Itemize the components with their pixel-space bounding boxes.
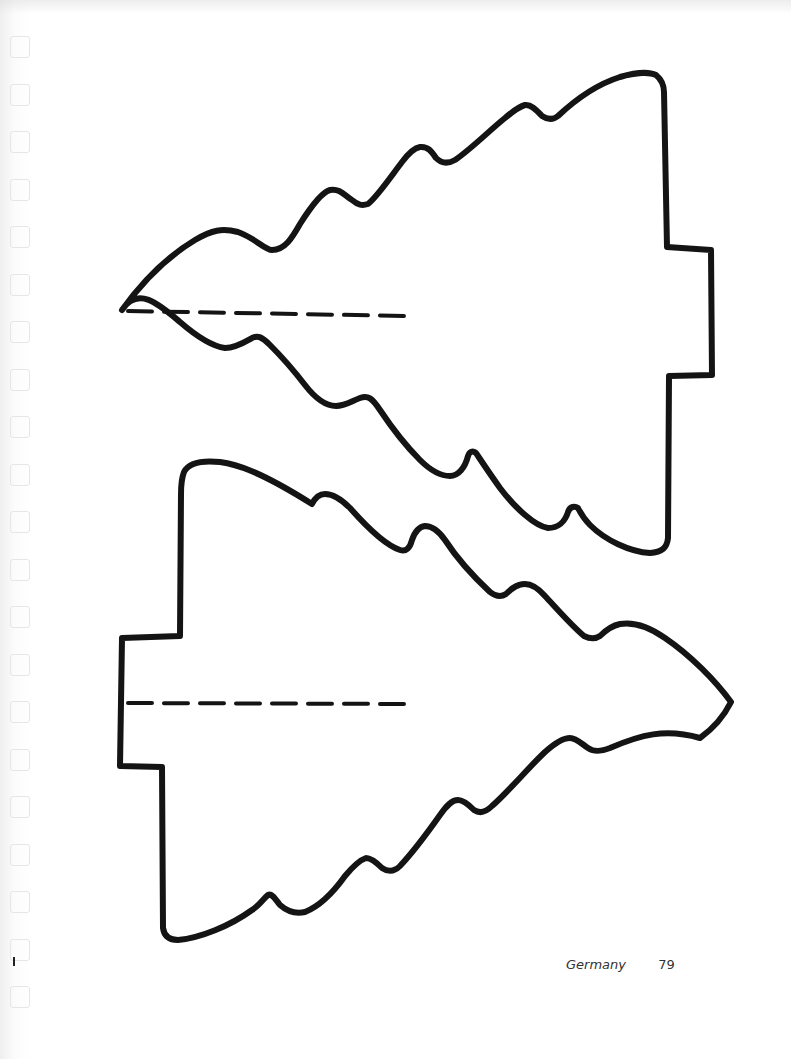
tree-templates [0,0,791,1059]
page-footer: Germany 79 [566,957,675,972]
footer-section-title: Germany [566,957,626,972]
page-number: 79 [658,957,675,972]
tree-template-top [122,73,712,553]
tree-bottom-outline [120,461,731,940]
tree-bottom-fold-line [128,703,409,704]
tree-template-bottom [120,461,731,940]
